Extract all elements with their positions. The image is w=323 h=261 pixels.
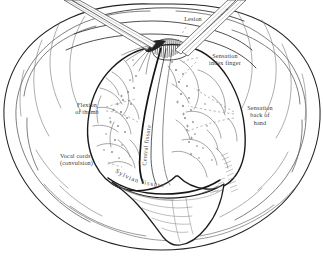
label-lesion: Lesion [175,15,211,22]
label-sensation-back-of-hand: Sensation back of hand [238,104,282,126]
label-sensation-index-finger: Sensation index finger [195,52,255,67]
anatomical-illustration: Central fissure Sylvian fissure [0,0,323,261]
label-vocal-cords: Vocal cords' (convulsion) [60,152,116,167]
label-flexion-of-thumb: Flexion of thumb [65,101,109,116]
